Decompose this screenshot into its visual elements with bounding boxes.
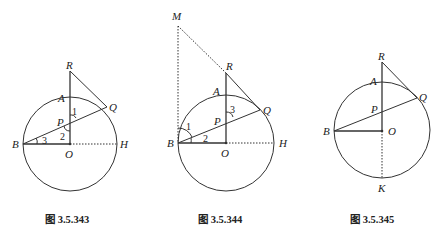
- angle-3-label: 3: [230, 104, 235, 115]
- label-q: Q: [109, 101, 117, 113]
- angle-1-label: 1: [72, 106, 77, 117]
- segment-mr-dotted: [178, 26, 226, 73]
- angle-2-label: 2: [60, 131, 65, 142]
- label-o: O: [65, 148, 73, 160]
- label-o: O: [388, 125, 396, 137]
- label-r: R: [377, 50, 385, 62]
- label-p: P: [213, 115, 221, 127]
- label-q: Q: [419, 91, 427, 103]
- angle-2-label: 2: [203, 133, 208, 144]
- label-r: R: [225, 60, 233, 72]
- label-a: A: [57, 92, 65, 104]
- segment-rq: [70, 71, 107, 107]
- label-b: B: [323, 125, 330, 137]
- label-p: P: [56, 116, 64, 128]
- label-b: B: [167, 137, 174, 149]
- angle-1-label: 1: [186, 121, 191, 132]
- label-p: P: [370, 103, 378, 115]
- label-m: M: [171, 10, 182, 22]
- angle-3-arc: [36, 138, 37, 144]
- figure-343: R A Q P B O H 1 2 3 图 3.5.343: [12, 59, 129, 225]
- caption-345: 图 3.5.345: [350, 214, 394, 225]
- label-o: O: [221, 147, 229, 159]
- label-a: A: [369, 75, 377, 87]
- label-q: Q: [263, 104, 271, 116]
- figure-345: R A Q P B O K 图 3.5.345: [323, 50, 430, 225]
- angle-3-label: 3: [42, 135, 47, 146]
- label-r: R: [65, 59, 73, 71]
- label-k: K: [377, 182, 386, 194]
- center-o-dot: [381, 130, 384, 133]
- figure-344: M R A Q P B O H 1 2 3 图 3.5.344: [167, 10, 288, 225]
- label-b: B: [12, 138, 19, 150]
- label-h: H: [278, 137, 288, 149]
- caption-343: 图 3.5.343: [45, 214, 89, 225]
- label-h: H: [119, 138, 129, 150]
- label-a: A: [212, 85, 220, 97]
- caption-344: 图 3.5.344: [198, 214, 243, 225]
- center-o-dot: [69, 143, 72, 146]
- segment-rq: [382, 62, 417, 98]
- center-o-dot: [225, 142, 228, 145]
- geometry-figures: R A Q P B O H 1 2 3 图 3.5.343 M R A Q P …: [0, 0, 436, 233]
